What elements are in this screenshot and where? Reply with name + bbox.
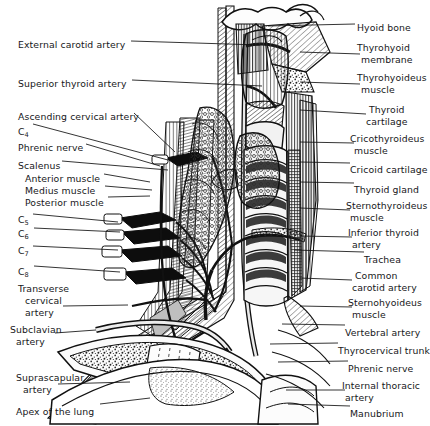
label-c7-root-subscript: 7 [25, 250, 29, 258]
label-sternothyroideus-muscle: Sternothyroideus [346, 200, 427, 211]
label-c5-root: C5 [18, 214, 29, 225]
label-subclavian-artery-l2: artery [16, 336, 45, 347]
label-transverse-cervical-artery: Transverse [18, 283, 69, 294]
label-phrenic-nerve-left: Phrenic nerve [18, 142, 83, 153]
label-sternohyoideus-muscle-l2: muscle [352, 309, 386, 320]
label-cricoid-cartilage: Cricoid cartilage [350, 164, 428, 175]
manubrium [258, 375, 318, 424]
label-sternohyoideus-muscle: Sternohyoideus [348, 297, 422, 308]
label-suprascapular-artery-l2: artery [23, 384, 52, 395]
label-thyrohyoid-membrane-l2: membrane [361, 54, 413, 65]
label-trachea: Trachea [364, 254, 401, 265]
label-inferior-thyroid-artery-l2: artery [352, 239, 381, 250]
label-thyrocervical-trunk: Thyrocervical trunk [338, 345, 430, 356]
label-c7-root: C7 [18, 245, 29, 256]
label-thyrohyoid-membrane: Thyrohyoid [357, 42, 410, 53]
label-hyoid-bone: Hyoid bone [357, 22, 411, 33]
label-suprascapular-artery: Suprascapular [16, 372, 84, 383]
label-vertebral-artery: Vertebral artery [345, 327, 420, 338]
label-thyroid-cartilage: Thyroid [369, 104, 405, 115]
label-thyrohyoideus-muscle-l2: muscle [361, 84, 395, 95]
label-thyroid-cartilage-l2: cartilage [366, 116, 408, 127]
label-scalenus: Scalenus [18, 160, 60, 171]
label-c8-root: C8 [18, 266, 29, 277]
label-common-carotid-artery-l2: carotid artery [352, 282, 417, 293]
label-c6-root-subscript: 6 [25, 233, 29, 241]
label-internal-thoracic-artery-l2: artery [345, 392, 374, 403]
label-c6-root: C6 [18, 228, 29, 239]
label-phrenic-nerve-right: Phrenic nerve [348, 363, 413, 374]
label-scalenus-anterior-muscle: Anterior muscle [25, 173, 100, 184]
label-transverse-cervical-artery-l2: cervical [25, 295, 62, 306]
label-c8-root-subscript: 8 [25, 271, 29, 279]
label-inferior-thyroid-artery: Inferior thyroid [348, 227, 419, 238]
label-ascending-cervical-artery: Ascending cervical artery [18, 111, 139, 122]
label-c4-root: C4 [18, 126, 29, 137]
label-subclavian-artery: Subclavian [10, 324, 62, 335]
label-thyrohyoideus-muscle: Thyrohyoideus [357, 72, 427, 83]
label-internal-thoracic-artery: Internal thoracic [342, 380, 420, 391]
label-scalenus-posterior-muscle: Posterior muscle [25, 197, 104, 208]
label-manubrium: Manubrium [350, 408, 404, 419]
label-c4-root-subscript: 4 [25, 131, 29, 139]
label-common-carotid-artery: Common [355, 270, 397, 281]
label-apex-of-the-lung: Apex of the lung [16, 406, 94, 417]
label-superior-thyroid-artery: Superior thyroid artery [18, 78, 127, 89]
label-cricothyroideus-muscle: Cricothyroideus [350, 133, 424, 144]
label-scalenus-medius-muscle: Medius muscle [25, 185, 95, 196]
label-cricothyroideus-muscle-l2: muscle [354, 145, 388, 156]
label-c5-root-subscript: 5 [25, 219, 29, 227]
label-transverse-cervical-artery-l3: artery [25, 307, 54, 318]
label-sternothyroideus-muscle-l2: muscle [350, 212, 384, 223]
label-external-carotid-artery: External carotid artery [18, 39, 125, 50]
label-thyroid-gland: Thyroid gland [354, 184, 419, 195]
